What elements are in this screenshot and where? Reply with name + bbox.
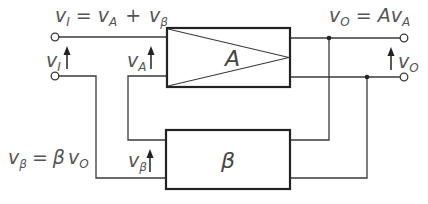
feedback-block-diagram: A β vI=vA+vβ vO=AvA vβ=βvO vI [0, 0, 428, 204]
input-voltage-arrow-icon [64, 46, 71, 69]
feedback-takeoff-top-wire [290, 38, 329, 140]
feedback-equation-label: vβ=βvO [8, 146, 89, 171]
output-terminal-bottom [400, 73, 408, 81]
feedback-block: β [166, 130, 290, 189]
input-voltage-label: vI [46, 49, 61, 74]
input-terminal-top [51, 33, 59, 41]
amplifier-label: A [223, 46, 240, 71]
output-terminal-top [400, 34, 408, 42]
feedback-voltage-label: vβ [128, 149, 147, 174]
amp-input-voltage-arrow-icon [148, 46, 155, 69]
junction-dot-bottom [365, 75, 370, 80]
feedback-voltage-arrow-icon [147, 149, 154, 172]
input-equation-label: vI=vA+vβ [55, 4, 168, 29]
output-equation-label: vO=AvA [329, 4, 410, 29]
amp-input-voltage-label: vA [127, 49, 146, 74]
amp-input-bottom-wire [128, 76, 167, 140]
junction-dot-top [327, 36, 332, 41]
amplifier-block: A [167, 28, 290, 87]
output-voltage-label: vO [398, 50, 419, 75]
feedback-label: β [220, 148, 235, 173]
output-voltage-arrow-icon [388, 47, 395, 70]
